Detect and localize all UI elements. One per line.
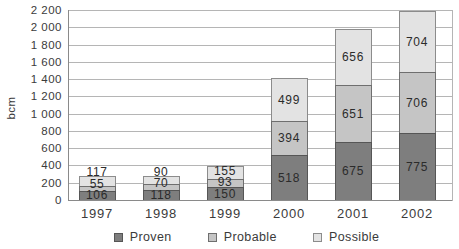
legend-swatch-proven bbox=[114, 233, 123, 242]
bar-value-label: 155 bbox=[214, 164, 236, 178]
plot-right-border bbox=[452, 10, 453, 201]
y-tick-label: 600 bbox=[0, 142, 62, 155]
bar-value-label: 117 bbox=[87, 165, 108, 179]
legend-item-possible: Possible bbox=[313, 230, 379, 244]
legend-label: Proven bbox=[130, 230, 172, 244]
gridline bbox=[68, 183, 452, 184]
x-tick-label: 2001 bbox=[337, 206, 369, 221]
bar-value-label: 706 bbox=[406, 96, 428, 110]
y-tick-label: 2 200 bbox=[0, 4, 62, 17]
y-tick-label: 1 000 bbox=[0, 108, 62, 121]
bar-value-label: 394 bbox=[278, 131, 300, 145]
gridline bbox=[68, 165, 452, 166]
y-tick-label: 1 400 bbox=[0, 73, 62, 86]
y-tick-label: 1 600 bbox=[0, 56, 62, 69]
y-tick-label: 400 bbox=[0, 159, 62, 172]
x-tick-label: 2000 bbox=[273, 206, 305, 221]
legend-item-proven: Proven bbox=[114, 230, 172, 244]
gridline bbox=[68, 114, 452, 115]
y-axis-line bbox=[68, 10, 69, 201]
gridline bbox=[68, 10, 452, 11]
chart-container: bcm ProvenProbablePossible 0200400600800… bbox=[0, 0, 459, 249]
legend-label: Probable bbox=[224, 230, 277, 244]
x-tick-label: 1999 bbox=[209, 206, 241, 221]
bar-value-label: 775 bbox=[406, 160, 428, 174]
legend-label: Possible bbox=[329, 230, 379, 244]
bar-value-label: 499 bbox=[278, 93, 300, 107]
bar-value-label: 675 bbox=[342, 164, 364, 178]
legend: ProvenProbablePossible bbox=[0, 230, 459, 244]
y-tick-label: 800 bbox=[0, 125, 62, 138]
bar-value-label: 651 bbox=[342, 107, 364, 121]
gridline bbox=[68, 45, 452, 46]
legend-swatch-probable bbox=[208, 233, 217, 242]
x-tick-label: 1997 bbox=[81, 206, 113, 221]
bar-value-label: 90 bbox=[154, 165, 169, 179]
y-tick-label: 1 200 bbox=[0, 90, 62, 103]
y-tick-label: 1 800 bbox=[0, 39, 62, 52]
x-tick-label: 1998 bbox=[145, 206, 177, 221]
gridline bbox=[68, 96, 452, 97]
bar-value-label: 518 bbox=[278, 171, 300, 185]
gridline bbox=[68, 27, 452, 28]
gridline bbox=[68, 79, 452, 80]
gridline bbox=[68, 62, 452, 63]
x-tick-label: 2002 bbox=[401, 206, 433, 221]
y-tick-label: 0 bbox=[0, 194, 62, 207]
gridline bbox=[68, 131, 452, 132]
bar-value-label: 704 bbox=[406, 35, 428, 49]
bar-value-label: 656 bbox=[342, 50, 364, 64]
legend-swatch-possible bbox=[313, 233, 322, 242]
y-tick-label: 200 bbox=[0, 177, 62, 190]
legend-item-probable: Probable bbox=[208, 230, 277, 244]
gridline bbox=[68, 148, 452, 149]
x-axis-line bbox=[68, 200, 452, 201]
y-tick-label: 2 000 bbox=[0, 21, 62, 34]
